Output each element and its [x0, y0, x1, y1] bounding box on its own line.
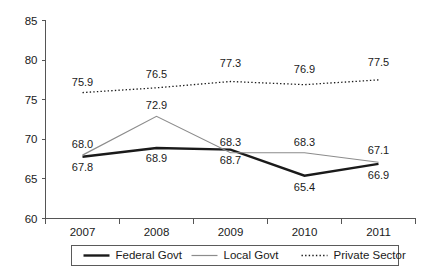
data-point-label: 67.8	[72, 161, 93, 173]
data-point-label: 75.9	[72, 76, 93, 88]
y-tick-label: 60	[25, 213, 38, 225]
x-tick-label: 2010	[292, 226, 318, 238]
data-point-label: 66.9	[368, 169, 389, 181]
y-tick-label: 80	[25, 54, 38, 66]
chart-legend: Federal GovtLocal GovtPrivate Sector	[72, 246, 406, 266]
x-tick-group	[46, 219, 416, 224]
data-point-label: 76.5	[146, 68, 167, 80]
x-tick-label: 2011	[366, 226, 391, 238]
x-axis: 20072008200920102011	[46, 219, 416, 238]
x-tick-label-group: 20072008200920102011	[70, 226, 391, 238]
data-point-label: 68.7	[220, 154, 241, 166]
legend-label: Private Sector	[334, 249, 406, 261]
y-tick-label: 85	[25, 15, 38, 27]
data-label-group: 67.868.968.765.466.968.072.968.368.367.1…	[72, 56, 389, 193]
series-line	[83, 80, 379, 93]
data-point-label: 77.3	[220, 57, 241, 69]
data-point-label: 68.3	[294, 136, 315, 148]
y-tick-label: 75	[25, 94, 38, 106]
data-point-label: 72.9	[146, 99, 167, 111]
data-point-label: 68.0	[72, 138, 93, 150]
data-point-label: 76.9	[294, 63, 315, 75]
x-tick-label: 2008	[144, 226, 170, 238]
data-point-label: 65.4	[294, 181, 315, 193]
legend-label: Federal Govt	[116, 249, 183, 261]
x-tick-label: 2009	[218, 226, 244, 238]
data-point-label: 77.5	[368, 56, 389, 68]
y-tick-label: 70	[25, 133, 38, 145]
y-tick-group: 606570758085	[25, 15, 46, 225]
line-chart: 606570758085 20072008200920102011 67.868…	[0, 0, 422, 278]
data-point-label: 68.3	[220, 136, 241, 148]
data-point-label: 67.1	[368, 144, 389, 156]
x-tick-label: 2007	[70, 226, 96, 238]
y-axis: 606570758085	[25, 15, 46, 225]
chart-canvas: 606570758085 20072008200920102011 67.868…	[0, 0, 422, 278]
legend-label: Local Govt	[224, 249, 280, 261]
data-point-label: 68.9	[146, 152, 167, 164]
y-tick-label: 65	[25, 173, 38, 185]
